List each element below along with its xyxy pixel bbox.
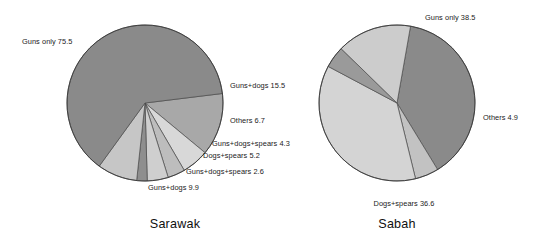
sarawak-slice-label-3: Guns+dogs+spears 4.3: [212, 139, 290, 148]
sarawak-slice-label-0: Guns only 75.5: [22, 37, 72, 46]
chart-caption-sarawak: Sarawak: [150, 217, 201, 231]
sarawak-slice-label-6: Guns+dogs 9.9: [148, 183, 199, 192]
sabah-pie-chart: Guns only 38.5Others 4.9Dogs+spears 36.6…: [319, 25, 475, 181]
sarawak-slice-label-4: Dogs+spears 5.2: [203, 151, 260, 160]
sarawak-slice-label-2: Others 6.7: [230, 116, 265, 125]
dual-pie-chart-figure: Guns+dogs 15.5Others 6.7Guns+dogs+spears…: [0, 0, 547, 240]
sarawak-pie-chart: Guns+dogs 15.5Others 6.7Guns+dogs+spears…: [67, 25, 223, 181]
sarawak-slice-label-1: Guns+dogs 15.5: [230, 81, 285, 90]
sabah-slice-label-0: Guns only 38.5: [425, 13, 475, 22]
chart-caption-sabah: Sabah: [378, 217, 415, 231]
sarawak-slice-label-5: Guns+dogs+spears 2.6: [186, 167, 264, 176]
pie-charts-canvas: Guns+dogs 15.5Others 6.7Guns+dogs+spears…: [0, 0, 547, 240]
chart-captions: SarawakSabah: [150, 217, 416, 231]
sabah-slice-label-2: Dogs+spears 36.6: [374, 199, 435, 208]
sabah-slice-label-1: Others 4.9: [483, 113, 518, 122]
